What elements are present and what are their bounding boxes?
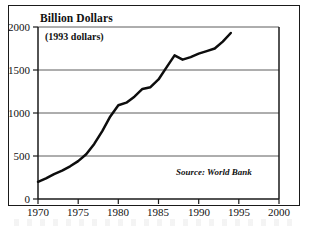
- data-series-line: [38, 33, 231, 182]
- x-tick-label-1990: 1990: [181, 207, 217, 218]
- x-tick-label-2000: 2000: [261, 207, 297, 218]
- chart-source-note: Source: World Bank: [176, 167, 252, 177]
- scan-artifact: [14, 219, 296, 226]
- x-tick-label-1985: 1985: [140, 207, 176, 218]
- chart-units-note: (1993 dollars): [45, 31, 104, 42]
- chart-axis-title: Billion Dollars: [40, 12, 113, 24]
- y-tick-label-2000: 2000: [2, 22, 30, 33]
- x-tick-label-1970: 1970: [20, 207, 56, 218]
- x-tick-label-1995: 1995: [221, 207, 257, 218]
- y-tick-label-1000: 1000: [2, 108, 30, 119]
- y-tick-label-1500: 1500: [2, 65, 30, 76]
- x-tick-label-1980: 1980: [100, 207, 136, 218]
- gridlines: [38, 27, 279, 156]
- y-tick-label-0: 0: [2, 194, 30, 205]
- x-tick-label-1975: 1975: [60, 207, 96, 218]
- y-tick-label-500: 500: [2, 151, 30, 162]
